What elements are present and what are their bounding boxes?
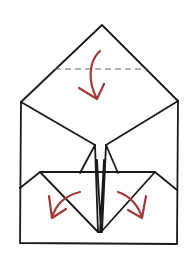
fold-left-arrow	[49, 192, 80, 218]
inner-diagonal-right	[106, 101, 178, 145]
inner-diagonal-left	[21, 102, 95, 145]
left-triangle-flap	[20, 172, 98, 232]
top-flap-triangle	[21, 25, 178, 102]
right-triangle-flap	[101, 172, 177, 232]
origami-diagram	[0, 0, 190, 259]
fold-right-arrow	[118, 192, 146, 218]
fold-down-arrow	[79, 51, 104, 99]
